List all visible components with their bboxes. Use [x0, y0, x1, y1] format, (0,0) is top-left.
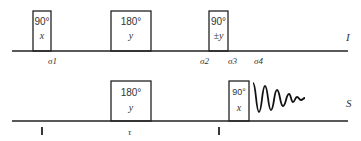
i-pulse-90y-phase: ±y [209, 31, 228, 41]
i-pulse-90y-angle: 90° [209, 17, 228, 27]
time-label-sigma1: σ1 [48, 57, 57, 66]
time-label-sigma3: σ3 [228, 57, 237, 66]
channel-label-i: I [346, 31, 350, 43]
s-pulse-180y-angle: 180° [111, 88, 151, 98]
i-pulse-180y-phase: y [111, 31, 151, 41]
s-pulse-180y-phase: y [111, 103, 151, 113]
channel-label-s: S [346, 97, 352, 109]
time-label-sigma4: σ4 [254, 57, 263, 66]
time-label-sigma2: σ2 [200, 57, 209, 66]
fid-signal [253, 83, 305, 112]
s-pulse-90x-phase: x [229, 103, 249, 113]
i-pulse-90x-angle: 90° [33, 17, 51, 27]
pulse-sequence-diagram [0, 0, 361, 141]
s-pulse-90x-angle: 90° [229, 88, 249, 97]
time-label-tau: τ [128, 128, 131, 137]
i-pulse-90x-phase: x [33, 31, 51, 41]
i-pulse-180y-angle: 180° [111, 17, 151, 27]
